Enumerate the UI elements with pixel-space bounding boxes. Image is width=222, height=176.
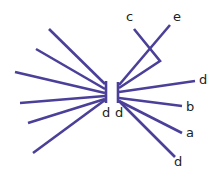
right-line-e xyxy=(119,25,170,85)
label-left-bar: d xyxy=(102,105,110,120)
label-b: b xyxy=(186,99,194,114)
label-right-bar: d xyxy=(115,105,123,120)
right-line-d-top xyxy=(119,81,195,92)
label-c: c xyxy=(126,9,133,24)
label-d-bottom: d xyxy=(174,154,182,169)
fan-diagram: edbadcdd xyxy=(0,0,222,176)
right-fan xyxy=(119,25,195,157)
label-a: a xyxy=(186,125,194,140)
label-d-top: d xyxy=(199,72,207,87)
left-fan xyxy=(15,29,105,153)
left-line-6 xyxy=(33,100,105,153)
left-line-1 xyxy=(49,29,105,84)
label-e: e xyxy=(173,9,181,24)
right-line-d-bottom xyxy=(119,101,175,157)
left-line-2 xyxy=(36,49,105,89)
